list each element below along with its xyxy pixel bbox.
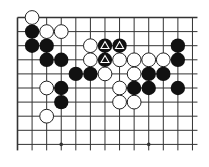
black-stone [25,39,39,53]
white-stone [84,39,98,53]
go-board [0,0,209,167]
white-stone [84,53,98,67]
black-stone [171,81,185,95]
black-stone-marked [98,53,112,67]
white-stone [127,95,141,109]
black-stone [39,53,53,67]
white-stone [113,81,127,95]
white-stone [127,67,141,81]
black-stone [127,81,141,95]
white-stone [113,95,127,109]
white-stone [113,53,127,67]
black-stone-marked [98,39,112,53]
black-stone [83,67,97,81]
white-stone [142,53,156,67]
white-stone [156,53,170,67]
black-stone [25,24,39,38]
black-stone [142,81,156,95]
white-stone [127,53,141,67]
black-stone [142,67,156,81]
white-stone [40,81,54,95]
black-stone [54,95,68,109]
black-stone [39,39,53,53]
white-stone [25,11,39,25]
black-stone-marked [112,39,126,53]
white-stone [40,25,54,39]
black-stone [69,67,83,81]
black-stone [156,67,170,81]
white-stone [54,25,68,39]
black-stone [171,53,185,67]
black-stone [171,39,185,53]
star-point [147,143,151,147]
white-stone [98,67,112,81]
black-stone [54,53,68,67]
white-stone [40,109,54,123]
star-point [59,143,63,147]
black-stone [54,81,68,95]
